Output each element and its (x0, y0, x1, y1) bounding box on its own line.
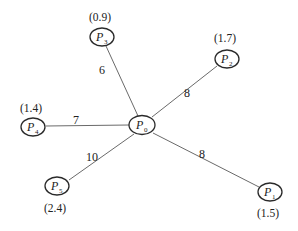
node-p4: (1.4) P 4 (20, 102, 45, 136)
node-p0: P 0 (129, 116, 155, 135)
node-label: P (263, 185, 272, 199)
node-coord: (1.7) (214, 32, 236, 45)
node-subscript: 2 (229, 60, 233, 68)
weight-p0-p3: 6 (99, 63, 105, 77)
node-p1: P 1 (1.5) (257, 183, 282, 220)
star-graph-diagram: 6 8 7 10 8 P 0 (0.9) P 3 (1.7) P 2 (1.4)… (0, 0, 298, 231)
edge-p0-p1 (153, 133, 259, 187)
node-label: P (95, 30, 104, 44)
node-label: P (220, 52, 229, 66)
edge-p0-p4 (46, 125, 129, 126)
weight-p0-p2: 8 (184, 86, 190, 100)
weight-p0-p4: 7 (73, 113, 79, 127)
node-label: P (50, 179, 59, 193)
edge-p0-p3 (106, 46, 138, 116)
node-p5: P 5 (2.4) (44, 177, 69, 215)
weight-p0-p5: 10 (86, 150, 98, 164)
node-label: P (26, 120, 35, 134)
node-subscript: 5 (59, 187, 63, 195)
edge-p0-p5 (69, 134, 134, 180)
node-subscript: 3 (104, 38, 108, 46)
node-coord: (0.9) (89, 11, 111, 24)
node-subscript: 1 (272, 193, 276, 201)
node-coord: (1.5) (257, 207, 279, 220)
node-coord: (1.4) (20, 102, 42, 115)
node-p3: (0.9) P 3 (89, 11, 114, 46)
node-p2: (1.7) P 2 (214, 32, 239, 68)
weight-p0-p1: 8 (199, 147, 205, 161)
node-subscript: 0 (144, 126, 148, 134)
node-subscript: 4 (35, 128, 39, 136)
node-coord: (2.4) (44, 202, 66, 215)
node-label: P (135, 118, 144, 132)
